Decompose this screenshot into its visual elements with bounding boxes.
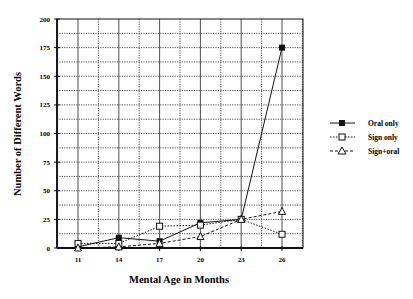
legend-item-sign-oral: Sign+oral [330,147,399,156]
x-tick-label: 14 [115,256,123,264]
y-tick-label: 75 [43,159,51,167]
x-tick-label: 23 [238,256,246,264]
data-point [279,45,285,51]
legend-label-sign-oral: Sign+oral [368,147,399,156]
data-point [157,223,163,229]
y-tick-label: 125 [40,101,51,109]
data-point [279,231,285,237]
y-tick-label: 100 [40,130,51,138]
data-point [116,235,122,241]
legend-label-oral-only: Oral only [368,119,399,128]
open-triangle-marker-icon [338,147,346,154]
open-square-marker-icon [339,134,345,140]
data-point [197,222,203,228]
x-tick-label: 20 [197,256,205,264]
legend-label-sign-only: Sign only [368,133,398,142]
legend-item-sign-only: Sign only [330,133,398,142]
y-tick-label: 0 [47,245,51,253]
x-axis-label: Mental Age in Months [129,274,229,285]
y-tick-label: 150 [40,73,51,81]
x-tick-label: 11 [75,256,82,264]
y-tick-label: 50 [43,187,51,195]
x-tick-label: 17 [156,256,164,264]
legend-item-oral-only: Oral only [330,119,399,128]
grid-lines [57,19,303,248]
x-tick-label: 26 [279,256,287,264]
y-tick-label: 175 [40,44,51,52]
data-point [279,207,286,214]
y-tick-label: 25 [43,216,51,224]
filled-square-marker-icon [339,120,345,126]
line-chart: 0255075100125150175200 111417202326 Numb… [0,0,413,299]
legend: Oral only Sign only Sign+oral [330,119,399,156]
y-axis-label: Number of Different Words [12,72,23,196]
y-tick-label: 200 [40,16,51,24]
